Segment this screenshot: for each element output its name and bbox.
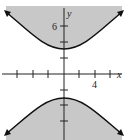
x-axis-label: x bbox=[116, 69, 122, 80]
y-axis-label: y bbox=[66, 8, 72, 19]
x-tick-label-4: 4 bbox=[92, 79, 97, 90]
y-tick-label-6: 6 bbox=[52, 21, 57, 32]
hyperbola-chart: y 6 4 x bbox=[0, 0, 130, 140]
